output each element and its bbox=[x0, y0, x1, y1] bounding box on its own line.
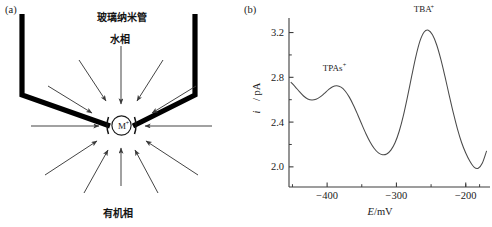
y-tick-label: 2.8 bbox=[271, 72, 284, 83]
arrow-aq-right-inner bbox=[137, 60, 163, 101]
nanopipette-schematic: M + bbox=[0, 0, 246, 227]
peak-annotation: TPAs+ bbox=[323, 61, 347, 72]
pipette-walls bbox=[22, 14, 195, 126]
x-tick-label: −300 bbox=[386, 190, 408, 201]
panel-b: (b) 2.02.42.83.2 −400−300−200 TPAs+TBA+ … bbox=[246, 0, 492, 227]
y-tick-label: 2.4 bbox=[271, 117, 285, 128]
arrow-org-left-inner bbox=[84, 150, 108, 193]
y-tick-label: 2.0 bbox=[271, 161, 284, 172]
arrow-org-right-inner bbox=[135, 150, 158, 193]
y-axis-title: i / pA bbox=[251, 82, 262, 113]
y-axis-title-symbol: i bbox=[251, 110, 262, 113]
x-axis-tick-labels: −400−300−200 bbox=[316, 190, 476, 201]
x-axis-major-ticks bbox=[327, 183, 466, 188]
peak-label-text: TPAs bbox=[323, 63, 343, 73]
peak-annotations: TPAs+TBA+ bbox=[323, 3, 435, 73]
voltammogram-curve bbox=[291, 30, 486, 168]
peak-label-superscript: + bbox=[431, 3, 435, 10]
ion-charge-label: + bbox=[126, 119, 130, 126]
voltammogram-chart: 2.02.42.83.2 −400−300−200 TPAs+TBA+ E /m… bbox=[246, 0, 492, 227]
x-axis-title-unit: /mV bbox=[374, 206, 393, 217]
x-axis-title: E /mV bbox=[367, 206, 394, 217]
arrow-aq-left-inner bbox=[79, 60, 106, 101]
peak-label-text: TBA bbox=[414, 4, 433, 14]
y-axis-title-unit: / pA bbox=[251, 82, 262, 101]
pipette-wall-left bbox=[22, 14, 110, 126]
arrow-org-right-outer bbox=[146, 141, 198, 175]
panel-a: (a) 玻璃纳米管 水相 有机相 M + bbox=[0, 0, 246, 227]
peak-annotation: TBA+ bbox=[414, 3, 435, 14]
pipette-wall-right bbox=[133, 14, 195, 126]
y-axis-tick-labels: 2.02.42.83.2 bbox=[271, 27, 285, 172]
x-tick-label: −400 bbox=[316, 190, 338, 201]
figure-container: (a) 玻璃纳米管 水相 有机相 M + bbox=[0, 0, 492, 227]
peak-label-superscript: + bbox=[343, 61, 347, 68]
organic-phase-arrows bbox=[45, 141, 198, 193]
x-tick-label: −200 bbox=[455, 190, 477, 201]
y-tick-label: 3.2 bbox=[271, 27, 284, 38]
arrow-org-left-outer bbox=[45, 141, 97, 175]
